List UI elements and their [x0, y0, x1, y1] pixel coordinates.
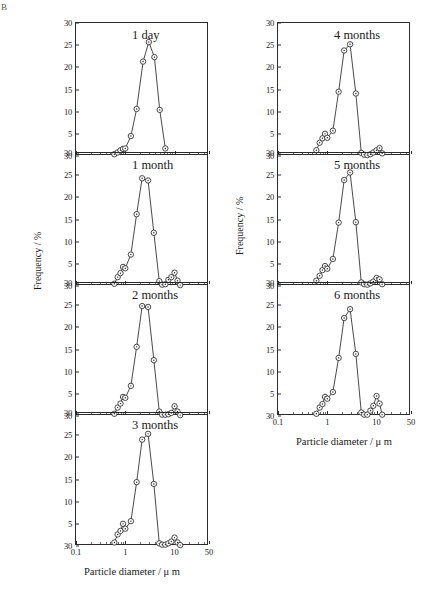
panel-title: 4 months: [334, 28, 380, 43]
x-axis-tick-label: 1: [123, 547, 127, 557]
x-axis-tick-label: 0.1: [273, 417, 284, 427]
y-axis-tick-label: 15: [64, 215, 72, 225]
y-axis-tick-label: 5: [68, 129, 72, 139]
panel-title: 3 months: [132, 418, 178, 433]
y-axis-tick-label: 20: [64, 62, 72, 72]
y-axis-tick-label: 30: [64, 18, 72, 28]
x-axis-tick-label: 0.1: [71, 547, 82, 557]
panel-title: 5 months: [334, 158, 380, 173]
y-axis-tick-label: 25: [64, 40, 72, 50]
y-axis-tick-label: 20: [266, 192, 274, 202]
y-axis-tick-label: 5: [270, 129, 274, 139]
y-axis-tick-label: 5: [68, 259, 72, 269]
x-axis-title-right: Particle diameter / μ m: [296, 436, 392, 447]
x-axis-tick-label: 1: [325, 417, 329, 427]
y-axis-tick-label: 10: [266, 107, 274, 117]
y-axis-tick-label: 5: [270, 389, 274, 399]
y-axis-tick-label: 30: [64, 408, 72, 418]
y-axis-tick-label: 5: [68, 519, 72, 529]
x-axis-tick-mark: [209, 151, 210, 154]
y-axis-tick-label: 15: [266, 85, 274, 95]
y-axis-tick-label: 5: [68, 389, 72, 399]
y-axis-tick-label: 20: [266, 62, 274, 72]
y-axis-tick-label: 15: [64, 475, 72, 485]
x-axis-tick-mark: [209, 281, 210, 284]
panel-title: 1 month: [132, 158, 173, 173]
x-axis-tick-label: 10: [170, 547, 179, 557]
x-axis-tick-label: 50: [205, 547, 214, 557]
panel-title: 6 months: [334, 288, 380, 303]
y-axis-title-right: Frequency / %: [234, 197, 245, 255]
y-axis-tick-label: 10: [64, 497, 72, 507]
y-axis-tick-label: 15: [266, 215, 274, 225]
x-axis-tick-label: 10: [372, 417, 381, 427]
figure-panel-label: B: [1, 2, 7, 12]
panel-title: 1 day: [132, 28, 159, 43]
y-axis-tick-label: 10: [64, 107, 72, 117]
y-axis-tick-label: 30: [64, 278, 72, 288]
y-axis-tick-label: 20: [266, 322, 274, 332]
y-axis-tick-label: 10: [64, 367, 72, 377]
y-axis-tick-label: 5: [270, 259, 274, 269]
y-axis-tick-label: 25: [266, 170, 274, 180]
y-axis-tick-label: 25: [266, 40, 274, 50]
y-axis-tick-label: 25: [64, 300, 72, 310]
x-axis-tick-mark: [411, 281, 412, 284]
y-axis-tick-label: 15: [64, 85, 72, 95]
x-axis-title-left: Particle diameter / μ m: [84, 566, 180, 577]
x-axis-tick-mark: [209, 541, 210, 544]
x-axis-tick-mark: [411, 151, 412, 154]
y-axis-title-left: Frequency / %: [32, 232, 43, 290]
x-axis-tick-mark: [411, 411, 412, 414]
x-axis-tick-mark: [209, 411, 210, 414]
y-axis-tick-label: 10: [266, 237, 274, 247]
y-axis-tick-label: 20: [64, 322, 72, 332]
y-axis-tick-label: 30: [64, 148, 72, 158]
y-axis-tick-label: 15: [266, 345, 274, 355]
x-axis-tick-label: 50: [407, 417, 416, 427]
y-axis-tick-label: 25: [64, 170, 72, 180]
y-axis-tick-label: 30: [266, 148, 274, 158]
y-axis-tick-label: 25: [266, 300, 274, 310]
y-axis-tick-label: 30: [266, 278, 274, 288]
y-axis-tick-label: 10: [64, 237, 72, 247]
y-axis-tick-label: 15: [64, 345, 72, 355]
y-axis-tick-label: 25: [64, 430, 72, 440]
y-axis-tick-label: 20: [64, 192, 72, 202]
y-axis-tick-label: 30: [266, 18, 274, 28]
y-axis-tick-label: 10: [266, 367, 274, 377]
y-axis-tick-label: 20: [64, 452, 72, 462]
panel-title: 2 months: [132, 288, 178, 303]
